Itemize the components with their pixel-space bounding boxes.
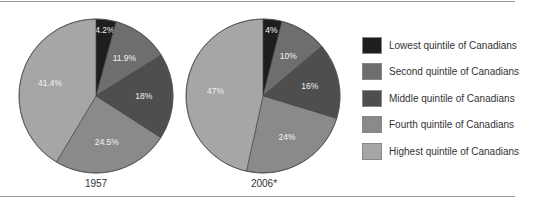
pie-slice <box>186 19 263 171</box>
legend-swatch-fourth <box>362 116 382 133</box>
legend-item-second: Second quintile of Canadians <box>362 59 519 86</box>
pie-1957-year-label: 1957 <box>66 178 126 189</box>
pie-slice-label: 16% <box>301 81 318 91</box>
pie-slice-label: 4.2% <box>95 25 115 35</box>
legend-item-highest: Highest quintile of Canadians <box>362 138 519 165</box>
pie-slice-label: 4% <box>265 25 278 35</box>
legend-label: Middle quintile of Canadians <box>389 93 515 104</box>
legend-swatch-second <box>362 63 382 80</box>
legend-item-middle: Middle quintile of Canadians <box>362 85 519 112</box>
pie-chart-1957: 4.2%11.9%18%24.5%41.4% <box>19 19 173 173</box>
legend-label: Fourth quintile of Canadians <box>389 119 514 130</box>
pie-slice-label: 41.4% <box>38 78 63 88</box>
legend-label: Lowest quintile of Canadians <box>389 40 517 51</box>
pie-slice-label: 10% <box>280 51 297 61</box>
pie-slice-label: 47% <box>207 86 224 96</box>
legend-swatch-highest <box>362 143 382 160</box>
legend-item-fourth: Fourth quintile of Canadians <box>362 112 519 139</box>
legend: Lowest quintile of Canadians Second quin… <box>362 32 519 165</box>
legend-label: Second quintile of Canadians <box>389 66 519 77</box>
legend-label: Highest quintile of Canadians <box>389 146 519 157</box>
pie-slice-label: 18% <box>135 91 152 101</box>
pie-slice-label: 24.5% <box>95 137 120 147</box>
pie-chart-2006: 4%10%16%24%47% <box>186 19 340 173</box>
pie-2006-year-label: 2006* <box>234 178 294 189</box>
legend-item-lowest: Lowest quintile of Canadians <box>362 32 519 59</box>
legend-swatch-middle <box>362 90 382 107</box>
pie-slice-label: 11.9% <box>113 53 137 63</box>
pie-slice-label: 24% <box>279 132 296 142</box>
legend-swatch-lowest <box>362 37 382 54</box>
